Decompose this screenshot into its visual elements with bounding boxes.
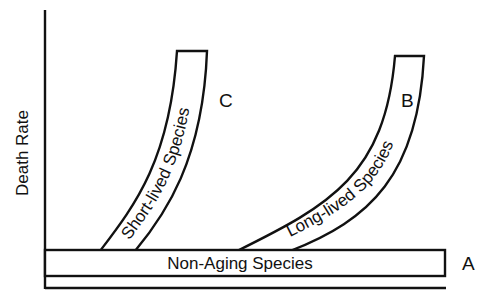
- curve-c-band: [100, 51, 207, 251]
- curve-b-band: [237, 56, 424, 251]
- curve-c-letter: C: [219, 90, 233, 111]
- curve-a-letter: A: [462, 253, 475, 274]
- curve-c-short-lived: Short-lived Species C: [100, 51, 233, 251]
- curve-a-label: Non-Aging Species: [167, 254, 313, 273]
- curve-a-non-aging: Non-Aging Species A: [45, 250, 475, 276]
- y-axis-label: Death Rate: [13, 110, 32, 196]
- curve-b-letter: B: [401, 90, 414, 111]
- death-rate-diagram: Death Rate Short-lived Species C Long-li…: [0, 0, 486, 306]
- curve-b-long-lived: Long-lived Species B: [237, 56, 424, 251]
